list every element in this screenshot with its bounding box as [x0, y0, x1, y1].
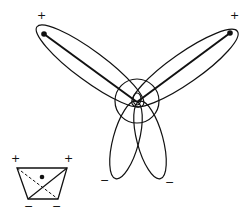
atom-dot-right [227, 30, 233, 36]
sign-bottom-left: − [100, 174, 109, 187]
inset-sign-bottom-right: − [52, 200, 61, 213]
bond-line-left [44, 34, 137, 102]
lobe-lower-left [103, 98, 149, 182]
inset-sign-top-left: + [11, 152, 20, 165]
inset-sign-bottom-left: − [24, 200, 33, 213]
lobe-lower-right [127, 98, 173, 182]
inset-dot [40, 175, 45, 180]
inset-trapezoid [17, 168, 67, 199]
sign-bottom-right: − [165, 176, 174, 189]
diagonal-solid [28, 168, 67, 199]
inset-sign-top-right: + [64, 152, 73, 165]
sign-top-left: + [37, 9, 46, 22]
bond-line-right [137, 33, 230, 102]
sign-top-right: + [230, 9, 239, 22]
orbital-diagram: + + − − + + − − [0, 0, 248, 216]
atom-dot-left [41, 31, 47, 37]
